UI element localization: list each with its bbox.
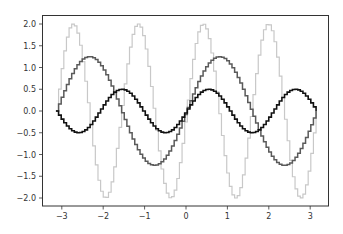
x-tick-label: 2: [266, 212, 271, 221]
y-tick-label: 1.0: [23, 64, 36, 73]
x-tick-label: 1: [225, 212, 230, 221]
x-tick-label: −3: [56, 212, 68, 221]
x-tick-label: 0: [183, 212, 188, 221]
plot-series: [56, 24, 316, 198]
y-tick-label: −0.5: [17, 129, 36, 138]
y-tick-label: −2.0: [17, 194, 36, 203]
chart: −3−2−10123 2.01.51.00.50.0−0.5−1.0−1.5−2…: [0, 0, 343, 234]
x-axis: −3−2−10123: [56, 206, 313, 221]
y-tick-label: 1.5: [23, 42, 36, 51]
axes-frame: [43, 16, 329, 207]
series-line-2: [56, 89, 316, 132]
y-tick-label: −1.5: [17, 172, 36, 181]
y-tick-label: 0.0: [23, 107, 36, 116]
y-tick-label: 2.0: [23, 20, 36, 29]
x-tick-label: 3: [308, 212, 313, 221]
y-axis: 2.01.51.00.50.0−0.5−1.0−1.5−2.0: [17, 20, 43, 203]
y-tick-label: 0.5: [23, 85, 36, 94]
x-tick-label: −2: [97, 212, 109, 221]
x-tick-label: −1: [139, 212, 151, 221]
y-tick-label: −1.0: [17, 151, 36, 160]
series-line-0: [56, 24, 316, 198]
